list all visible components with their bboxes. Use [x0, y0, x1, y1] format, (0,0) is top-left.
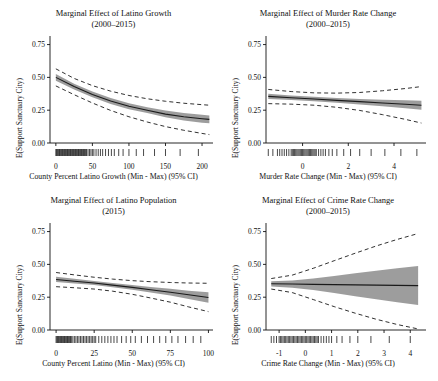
- y-tick-label: 0.25: [248, 293, 261, 302]
- x-tick-label: -1: [276, 349, 282, 358]
- plot-area: 0.000.250.500.750255075100: [6, 193, 221, 378]
- x-tick-label: 1: [330, 349, 334, 358]
- x-tick-label: 100: [123, 162, 135, 171]
- plot-area: 0.000.250.500.75024: [222, 6, 434, 191]
- x-tick-label: 0: [301, 162, 305, 171]
- y-tick-label: 0.75: [32, 227, 45, 236]
- panel-crime-rate-change: Marginal Effect of Crime Rate Change(200…: [222, 193, 434, 378]
- y-tick-label: 0.25: [32, 293, 45, 302]
- x-tick-label: 0: [54, 349, 58, 358]
- ci-line-outer: [268, 87, 421, 94]
- x-tick-label: 2: [356, 349, 360, 358]
- y-tick-label: 0.75: [248, 227, 261, 236]
- x-tick-label: 4: [408, 349, 412, 358]
- y-tick-label: 0.25: [248, 106, 261, 115]
- y-tick-label: 0.50: [248, 73, 261, 82]
- y-tick-label: 0.00: [32, 326, 45, 335]
- y-tick-label: 0.50: [248, 260, 261, 269]
- panel-murder-rate-change: Marginal Effect of Murder Rate Change(20…: [222, 6, 434, 191]
- x-tick-label: 100: [203, 349, 215, 358]
- y-tick-label: 0.00: [248, 139, 261, 148]
- x-tick-label: 50: [129, 349, 137, 358]
- y-tick-label: 0.00: [32, 139, 45, 148]
- x-tick-label: 0: [303, 349, 307, 358]
- y-tick-label: 0.25: [32, 106, 45, 115]
- plot-area: 0.000.250.500.75-101234: [222, 193, 434, 378]
- x-tick-label: 200: [196, 162, 208, 171]
- y-tick-label: 0.75: [248, 40, 261, 49]
- y-tick-label: 0.50: [32, 260, 45, 269]
- ci-band-inner: [56, 277, 208, 303]
- x-tick-label: 0: [54, 162, 58, 171]
- x-tick-label: 4: [392, 162, 396, 171]
- panel-latino-growth: Marginal Effect of Latino Growth(2000–20…: [6, 6, 221, 191]
- x-tick-label: 150: [160, 162, 172, 171]
- ci-line-outer: [56, 86, 210, 135]
- y-tick-label: 0.50: [32, 73, 45, 82]
- x-tick-label: 2: [346, 162, 350, 171]
- x-tick-label: 25: [90, 349, 98, 358]
- figure-panel-grid: Marginal Effect of Latino Growth(2000–20…: [0, 0, 438, 381]
- estimate-line: [56, 77, 210, 119]
- y-tick-label: 0.00: [248, 326, 261, 335]
- x-tick-label: 50: [89, 162, 97, 171]
- panel-latino-population: Marginal Effect of Latino Population(201…: [6, 193, 221, 378]
- ci-band-inner: [56, 74, 210, 123]
- y-tick-label: 0.75: [32, 40, 45, 49]
- plot-area: 0.000.250.500.75050100150200: [6, 6, 221, 191]
- ci-band-inner: [268, 94, 421, 110]
- x-tick-label: 3: [382, 349, 386, 358]
- x-tick-label: 75: [167, 349, 175, 358]
